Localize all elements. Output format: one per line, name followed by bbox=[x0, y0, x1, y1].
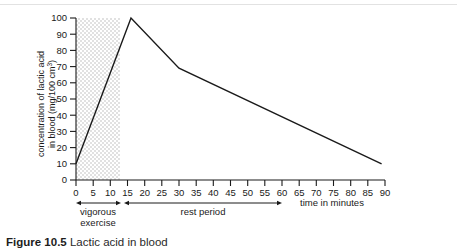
line-chart: 0 10 20 30 40 50 60 70 80 90 100 concent… bbox=[0, 0, 457, 232]
figure-caption-text: Lactic acid in blood bbox=[70, 236, 168, 248]
x-tick-label: 85 bbox=[363, 187, 374, 198]
x-axis-ticks bbox=[76, 180, 385, 186]
y-tick-label: 70 bbox=[56, 61, 67, 72]
y-tick-label: 50 bbox=[56, 93, 67, 104]
y-axis-title-line1: concentration of lactic acid bbox=[36, 51, 46, 157]
y-axis-title-line2: in blood (mg/100 cm3) bbox=[46, 60, 57, 148]
figure-caption: Figure 10.5 Lactic acid in blood bbox=[6, 236, 306, 249]
y-tick-label: 20 bbox=[56, 142, 67, 153]
x-tick-label: 60 bbox=[277, 187, 288, 198]
y-tick-label: 90 bbox=[56, 29, 67, 40]
y-axis-ticks bbox=[70, 18, 76, 180]
data-line-lactic-acid bbox=[76, 18, 382, 164]
x-tick-label: 30 bbox=[174, 187, 185, 198]
x-tick-label: 35 bbox=[191, 187, 202, 198]
vigorous-exercise-annotation: vigorous exercise bbox=[76, 201, 121, 228]
chart-figure: 0 10 20 30 40 50 60 70 80 90 100 concent… bbox=[0, 0, 457, 232]
y-tick-label: 0 bbox=[62, 174, 67, 185]
y-tick-label: 40 bbox=[56, 110, 67, 121]
x-tick-label: 15 bbox=[122, 187, 133, 198]
x-tick-label: 90 bbox=[380, 187, 391, 198]
figure-screenshot: 0 10 20 30 40 50 60 70 80 90 100 concent… bbox=[0, 0, 457, 249]
x-tick-label: 45 bbox=[225, 187, 236, 198]
x-tick-label: 25 bbox=[157, 187, 168, 198]
vigorous-exercise-band bbox=[76, 18, 120, 180]
rest-period-label: rest period bbox=[181, 206, 226, 217]
x-tick-label: 55 bbox=[260, 187, 271, 198]
rest-period-annotation: rest period bbox=[124, 201, 282, 217]
x-tick-label: 20 bbox=[139, 187, 150, 198]
y-tick-label: 60 bbox=[56, 77, 67, 88]
x-tick-label: 0 bbox=[73, 187, 78, 198]
figure-caption-line: Figure 10.5 Lactic acid in blood bbox=[6, 236, 306, 249]
vigorous-exercise-label-line1: vigorous bbox=[80, 206, 116, 217]
x-axis-title: time in minutes bbox=[300, 197, 364, 208]
y-tick-label: 80 bbox=[56, 45, 67, 56]
y-tick-label: 30 bbox=[56, 126, 67, 137]
y-tick-label: 100 bbox=[51, 12, 67, 23]
y-axis-title: concentration of lactic acid in blood (m… bbox=[36, 51, 57, 157]
x-tick-label: 5 bbox=[91, 187, 96, 198]
x-tick-label: 10 bbox=[105, 187, 116, 198]
x-tick-label: 50 bbox=[242, 187, 253, 198]
vigorous-exercise-label-line2: exercise bbox=[80, 217, 115, 228]
x-tick-label: 40 bbox=[208, 187, 219, 198]
y-tick-label: 10 bbox=[56, 158, 67, 169]
figure-caption-number: Figure 10.5 bbox=[6, 236, 67, 248]
